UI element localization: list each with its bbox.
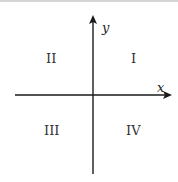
- x-axis-label: x: [157, 80, 164, 95]
- quadrant-iii-label: III: [44, 123, 59, 138]
- y-axis-label: y: [102, 20, 109, 35]
- coordinate-axes: [0, 0, 178, 182]
- quadrant-ii-label: II: [46, 51, 56, 66]
- quadrant-iv-label: IV: [126, 123, 141, 138]
- quadrant-i-label: I: [131, 51, 136, 66]
